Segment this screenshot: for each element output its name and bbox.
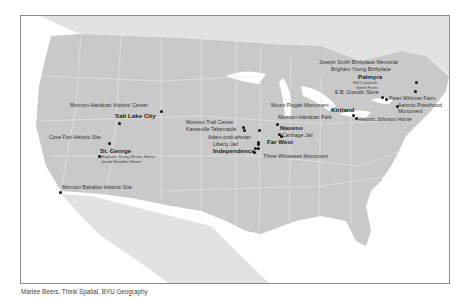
place-label-brigham-young-birthplace: Brigham Young Birthplace: [331, 67, 391, 72]
place-marker-independence: [253, 151, 256, 154]
place-marker-mount-pisgah: [258, 129, 261, 132]
place-label-carthage-jail: Carthage Jail: [282, 133, 313, 138]
place-label-three-witnesses: Three Witnesses Monument: [263, 154, 328, 159]
place-label-peter-whitmer-farm: Peter Whitmer Farm: [389, 96, 436, 101]
place-marker-mormon-battalion: [59, 191, 62, 194]
place-label-joseph-smith-birthplace: Joseph Smith Birthplace Memorial: [319, 60, 398, 65]
place-label-eb-grandin-store: E.B. Grandin Store: [335, 90, 379, 95]
place-marker-kirtland: [352, 114, 355, 117]
place-marker-three-witnesses: [257, 147, 260, 150]
place-label-mormon-trail-center: Mormon Trail Center: [186, 120, 233, 125]
place-marker-mormon-handcart-visitors-center: [160, 110, 163, 113]
place-marker-peter-whitmer-farm: [385, 98, 388, 101]
place-marker-eb-grandin-store: [381, 96, 384, 99]
place-label-salt-lake-city: Salt Lake City: [115, 113, 156, 119]
place-label-mormon-battalion: Mormon Battalion Historic Site: [62, 185, 132, 190]
map-credit: Marlee Beers, Think Spatial, BYU Geograp…: [21, 288, 148, 295]
map-frame: Salt Lake CityMormon Handcart Visitors' …: [20, 15, 450, 284]
place-label-jacob-hamblin-home: Jacob Hamblin Home: [101, 160, 141, 164]
place-label-nauvoo: Nauvoo: [280, 125, 303, 131]
place-label-adam-ondi-ahman: Adam-ondi-ahman: [208, 135, 251, 140]
place-label-kanesville-tabernacle: Kanesville Tabernacle: [186, 127, 236, 132]
place-label-mormon-handcart-park: Mormon Handcart Park: [278, 115, 332, 120]
place-marker-brigham-young-birthplace: [414, 90, 417, 93]
place-label-cove-fort: Cove Fort Historic Site: [49, 135, 101, 140]
place-label-kirtland: Kirtland: [331, 107, 354, 113]
place-marker-cove-fort: [108, 142, 111, 145]
place-label-far-west: Far West: [267, 139, 293, 145]
place-marker-carthage-jail: [280, 135, 283, 138]
place-label-mormon-handcart-visitors-center: Mormon Handcart Visitors' Center: [70, 103, 148, 108]
place-label-independence: Independence: [213, 148, 255, 154]
place-marker-mormon-handcart-park: [276, 123, 279, 126]
place-marker-joseph-smith-birthplace: [415, 81, 418, 84]
place-label-historic-johnson-home: Historic Johnson Home: [358, 117, 412, 122]
place-label-mount-pisgah: Mount Pisgah Monument: [271, 103, 329, 108]
place-marker-kanesville-tabernacle: [243, 129, 246, 132]
place-marker-salt-lake-city: [118, 122, 121, 125]
place-marker-far-west: [257, 143, 260, 146]
place-label-aaronic-priesthood-2: Monument: [398, 109, 423, 114]
place-marker-historic-johnson-home: [355, 117, 358, 120]
